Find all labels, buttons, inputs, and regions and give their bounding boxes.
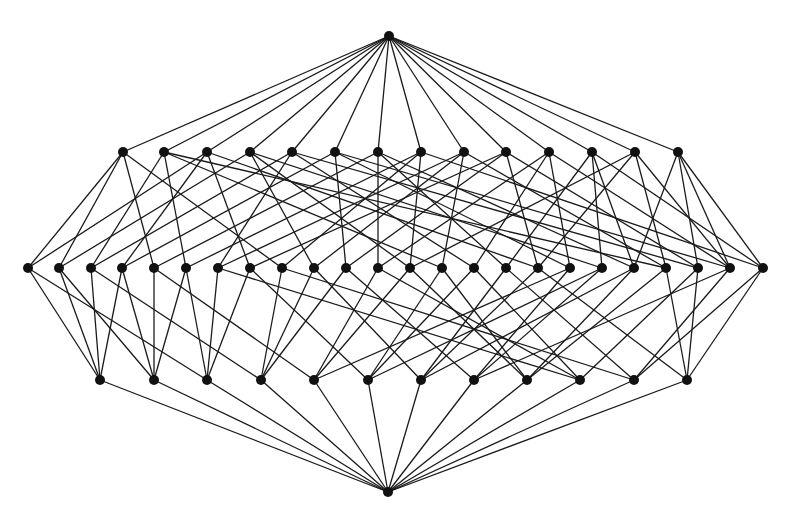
edge-level2-to-level3	[474, 268, 570, 380]
node-level-1-4	[287, 147, 297, 157]
node-level-2-15	[501, 263, 511, 273]
node-level-2-10	[341, 263, 351, 273]
edge-level2-to-level3	[207, 268, 218, 380]
node-level-2-12	[405, 263, 415, 273]
node-level-1-7	[416, 147, 426, 157]
edge-level2-to-level3	[527, 268, 666, 380]
edge-level3-to-bottom	[154, 380, 388, 492]
edge-level3-to-bottom	[388, 380, 580, 492]
node-level-3-11	[682, 375, 692, 385]
node-level-1-1	[159, 147, 169, 157]
node-level-1-3	[245, 147, 255, 157]
node-level-3-4	[309, 375, 319, 385]
hasse-diagram	[0, 0, 790, 516]
edge-level2-to-level3	[314, 268, 570, 380]
edge-level1-to-level2	[207, 152, 538, 268]
edges	[28, 36, 763, 492]
node-level-2-16	[533, 263, 543, 273]
edge-level2-to-level3	[378, 268, 580, 380]
edge-level3-to-bottom	[388, 380, 527, 492]
edge-level3-to-bottom	[207, 380, 388, 492]
node-level-2-20	[661, 263, 671, 273]
node-level-1-10	[544, 147, 554, 157]
node-level-2-9	[309, 263, 319, 273]
edge-level2-to-level3	[580, 268, 698, 380]
edge-level1-to-level2	[592, 152, 634, 268]
node-level-1-8	[459, 147, 469, 157]
node-level-2-1	[54, 263, 64, 273]
edge-level2-to-level3	[59, 268, 154, 380]
edge-level2-to-level3	[410, 268, 527, 380]
edge-level1-to-level2	[442, 152, 464, 268]
edge-level3-to-bottom	[100, 380, 388, 492]
edge-level2-to-level3	[314, 268, 378, 380]
node-level-2-23	[758, 263, 768, 273]
node-level-3-8	[522, 375, 532, 385]
edge-top-to-level1	[389, 36, 506, 152]
edge-level2-to-level3	[186, 268, 207, 380]
node-level-2-7	[245, 263, 255, 273]
node-bottom-0	[383, 487, 393, 497]
edge-level2-to-level3	[634, 268, 730, 380]
edge-top-to-level1	[389, 36, 592, 152]
node-level-2-11	[373, 263, 383, 273]
node-level-3-3	[256, 375, 266, 385]
edge-level2-to-level3	[314, 268, 410, 380]
edge-level2-to-level3	[538, 268, 687, 380]
edge-level1-to-level2	[91, 152, 292, 268]
edge-level1-to-level2	[635, 152, 730, 268]
node-level-2-5	[181, 263, 191, 273]
node-level-2-6	[213, 263, 223, 273]
node-level-1-11	[587, 147, 597, 157]
edge-top-to-level1	[389, 36, 678, 152]
edge-level2-to-level3	[250, 268, 368, 380]
node-level-3-0	[95, 375, 105, 385]
node-level-2-3	[117, 263, 127, 273]
edge-level1-to-level2	[292, 152, 474, 268]
edge-level1-to-level2	[122, 152, 207, 268]
edge-top-to-level1	[389, 36, 421, 152]
edge-level2-to-level3	[59, 268, 100, 380]
node-level-1-2	[202, 147, 212, 157]
node-level-1-0	[118, 147, 128, 157]
edge-level2-to-level3	[154, 268, 314, 380]
node-level-3-10	[629, 375, 639, 385]
edge-level1-to-level2	[678, 152, 763, 268]
node-level-3-5	[363, 375, 373, 385]
edge-level3-to-bottom	[388, 380, 634, 492]
node-level-2-18	[597, 263, 607, 273]
node-level-2-21	[693, 263, 703, 273]
node-level-2-17	[565, 263, 575, 273]
node-level-3-2	[202, 375, 212, 385]
edge-top-to-level1	[292, 36, 389, 152]
node-level-1-6	[373, 147, 383, 157]
edge-top-to-level1	[123, 36, 389, 152]
node-level-3-1	[149, 375, 159, 385]
edge-level2-to-level3	[261, 268, 314, 380]
edge-level2-to-level3	[666, 268, 687, 380]
node-level-1-12	[630, 147, 640, 157]
nodes	[23, 31, 768, 497]
node-level-3-7	[469, 375, 479, 385]
node-level-2-0	[23, 263, 33, 273]
edge-top-to-level1	[164, 36, 389, 152]
edge-level1-to-level2	[474, 152, 549, 268]
edge-level1-to-level2	[592, 152, 763, 268]
edge-level1-to-level2	[28, 152, 123, 268]
edge-level1-to-level2	[59, 152, 123, 268]
node-level-2-13	[437, 263, 447, 273]
edge-level2-to-level3	[91, 268, 100, 380]
node-level-1-13	[673, 147, 683, 157]
node-level-2-2	[86, 263, 96, 273]
node-level-1-9	[501, 147, 511, 157]
edge-level3-to-bottom	[388, 380, 687, 492]
node-level-3-6	[416, 375, 426, 385]
edge-level3-to-bottom	[368, 380, 388, 492]
node-level-2-19	[629, 263, 639, 273]
edge-level1-to-level2	[164, 152, 186, 268]
edge-level2-to-level3	[368, 268, 602, 380]
node-level-3-9	[575, 375, 585, 385]
node-level-1-5	[330, 147, 340, 157]
node-level-2-22	[725, 263, 735, 273]
edge-top-to-level1	[250, 36, 389, 152]
